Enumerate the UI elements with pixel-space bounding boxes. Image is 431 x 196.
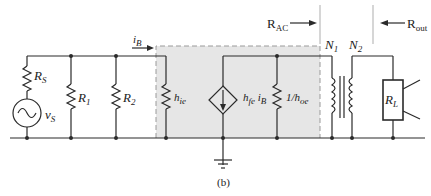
rac-label: RAC	[267, 17, 288, 33]
circuit-diagram	[0, 0, 431, 196]
speaker-horn-line-bottom	[403, 111, 420, 119]
n2-label: N2	[349, 38, 362, 54]
ib-arrow-icon	[147, 45, 154, 51]
sine-wave-icon	[18, 109, 36, 118]
rac-arrow-icon	[309, 20, 317, 26]
transformer-primary-coil	[332, 78, 335, 113]
r2-label: R2	[123, 91, 135, 107]
rl-label: RL	[385, 93, 398, 109]
hoe-label: 1/hoe	[286, 92, 309, 106]
figure-caption: (b)	[217, 177, 230, 188]
rout-label: Rout	[407, 17, 427, 33]
speaker-horn-line-top	[403, 80, 420, 89]
transformer-secondary-coil	[349, 78, 352, 113]
r1-label: R1	[78, 91, 90, 107]
vs-label: vS	[45, 108, 55, 124]
rout-arrow-icon	[380, 20, 388, 26]
hie-label: hie	[174, 92, 186, 106]
ib-label: iB	[133, 34, 142, 48]
hfe-label: hfe iB	[243, 92, 266, 106]
rs-resistor	[23, 66, 31, 91]
r2-resistor	[112, 84, 120, 109]
r1-resistor	[67, 84, 75, 109]
rs-label: RS	[34, 69, 46, 85]
n1-label: N1	[325, 38, 338, 54]
